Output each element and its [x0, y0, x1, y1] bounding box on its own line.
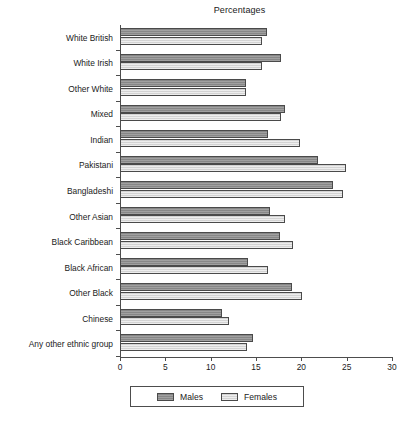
- bar-females: [120, 139, 300, 147]
- bar-males: [120, 283, 292, 291]
- x-axis-tick-label: 25: [342, 362, 351, 372]
- category-row: White British: [120, 25, 392, 51]
- x-axis-tick-label: 0: [118, 362, 123, 372]
- bar-females: [120, 88, 246, 96]
- bar-females: [120, 241, 293, 249]
- x-axis-tick: [256, 357, 257, 361]
- bar-females: [120, 292, 302, 300]
- x-axis-tick-label: 15: [251, 362, 260, 372]
- category-row: Pakistani: [120, 153, 392, 179]
- bar-females: [120, 113, 281, 121]
- category-row: Mixed: [120, 102, 392, 128]
- category-row: Black African: [120, 255, 392, 281]
- x-axis-tick: [211, 357, 212, 361]
- females-swatch: [221, 393, 238, 401]
- x-axis-tick-label: 5: [163, 362, 168, 372]
- bar-females: [120, 317, 229, 325]
- category-label: Mixed: [91, 109, 113, 119]
- category-label: Black African: [65, 263, 113, 273]
- legend-label: Males: [180, 392, 203, 402]
- chart-title: Percentages: [0, 5, 403, 15]
- category-row: Other White: [120, 76, 392, 102]
- category-label: Chinese: [82, 314, 113, 324]
- category-label: Pakistani: [79, 160, 113, 170]
- bar-males: [120, 156, 318, 164]
- category-label: Other Black: [69, 288, 113, 298]
- bar-males: [120, 309, 222, 317]
- category-label: White Irish: [73, 58, 113, 68]
- category-row: Black Caribbean: [120, 229, 392, 255]
- bar-males: [120, 28, 267, 36]
- bar-females: [120, 215, 285, 223]
- x-axis-tick: [301, 357, 302, 361]
- category-row: Chinese: [120, 306, 392, 332]
- bar-chart: Percentages White BritishWhite IrishOthe…: [0, 0, 403, 423]
- category-label: White British: [66, 33, 113, 43]
- category-label: Other Asian: [69, 212, 113, 222]
- chart-title-text: Percentages: [214, 5, 266, 15]
- bar-females: [120, 266, 268, 274]
- category-row: Bangladeshi: [120, 178, 392, 204]
- bar-males: [120, 334, 253, 342]
- bar-males: [120, 258, 248, 266]
- bar-females: [120, 190, 343, 198]
- category-row: Other Asian: [120, 204, 392, 230]
- category-row: Other Black: [120, 280, 392, 306]
- bar-females: [120, 164, 346, 172]
- legend-entry-females: Females: [221, 392, 277, 402]
- bar-females: [120, 62, 262, 70]
- x-axis-tick-label: 30: [387, 362, 396, 372]
- x-axis-tick-label: 20: [297, 362, 306, 372]
- category-label: Bangladeshi: [67, 186, 113, 196]
- bar-males: [120, 181, 333, 189]
- legend-entry-males: Males: [157, 392, 203, 402]
- category-row: Any other ethnic group: [120, 331, 392, 357]
- chart-legend: MalesFemales: [130, 386, 304, 407]
- bar-males: [120, 79, 246, 87]
- category-label: Indian: [90, 135, 113, 145]
- legend-label: Females: [244, 392, 277, 402]
- category-row: Indian: [120, 127, 392, 153]
- bar-males: [120, 232, 280, 240]
- bar-females: [120, 37, 262, 45]
- category-label: Black Caribbean: [52, 237, 113, 247]
- category-label: Other White: [68, 84, 113, 94]
- x-axis-tick: [392, 357, 393, 361]
- x-axis-tick: [120, 357, 121, 361]
- category-label: Any other ethnic group: [29, 339, 113, 349]
- bar-males: [120, 130, 268, 138]
- x-axis-tick-label: 10: [206, 362, 215, 372]
- x-axis-tick: [165, 357, 166, 361]
- bar-males: [120, 207, 270, 215]
- plot-area: White BritishWhite IrishOther WhiteMixed…: [120, 25, 392, 357]
- bar-females: [120, 343, 247, 351]
- category-row: White Irish: [120, 51, 392, 77]
- males-swatch: [157, 393, 174, 401]
- bar-males: [120, 54, 281, 62]
- bar-males: [120, 105, 285, 113]
- x-axis-tick: [347, 357, 348, 361]
